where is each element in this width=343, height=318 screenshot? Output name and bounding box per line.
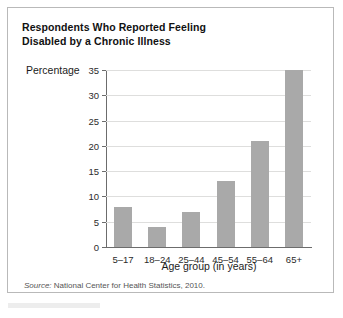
gridline (106, 121, 311, 122)
x-axis-title: Age group (in years) (106, 260, 312, 272)
y-tick-label: 25 (88, 115, 99, 126)
gridline (106, 70, 311, 71)
gridline (106, 146, 311, 147)
plot-area: 05101520253035 5–1718–2425–4445–5455–646… (106, 70, 311, 247)
y-axis-tick (102, 146, 106, 147)
chart-title-line-2: Disabled by a Chronic Illness (22, 34, 302, 48)
bar (148, 227, 166, 247)
y-tick-label: 5 (94, 216, 99, 227)
y-tick-label: 30 (88, 90, 99, 101)
y-axis-tick (102, 171, 106, 172)
bar (114, 207, 132, 247)
y-axis-tick (102, 121, 106, 122)
page-artifact (8, 303, 100, 308)
y-axis-tick (102, 222, 106, 223)
bar (251, 141, 269, 247)
source-label: Source: (24, 281, 52, 290)
source-note: Source: National Center for Health Stati… (24, 281, 205, 290)
y-axis-tick (102, 247, 106, 248)
bar (285, 70, 303, 247)
y-tick-label: 10 (88, 191, 99, 202)
y-axis-title: Percentage (26, 64, 80, 76)
source-text: National Center for Health Statistics, 2… (52, 281, 205, 290)
chart-title-line-1: Respondents Who Reported Feeling (22, 20, 302, 34)
figure-panel: Respondents Who Reported Feeling Disable… (7, 7, 334, 293)
gridline (106, 222, 311, 223)
bar (217, 181, 235, 247)
gridline (106, 95, 311, 96)
chart-title: Respondents Who Reported Feeling Disable… (22, 20, 302, 48)
y-axis-tick (102, 95, 106, 96)
x-axis-line (106, 247, 312, 248)
y-axis-tick (102, 70, 106, 71)
y-tick-label: 20 (88, 140, 99, 151)
gridline (106, 196, 311, 197)
y-tick-label: 35 (88, 65, 99, 76)
bar (182, 212, 200, 247)
y-tick-label: 15 (88, 166, 99, 177)
y-tick-label: 0 (94, 242, 99, 253)
gridline (106, 171, 311, 172)
y-axis-tick (102, 196, 106, 197)
